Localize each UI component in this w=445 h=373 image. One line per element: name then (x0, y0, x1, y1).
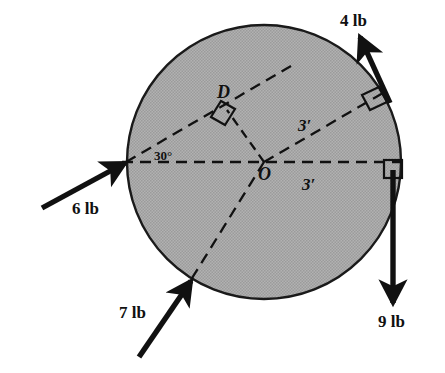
radius-label-lower: 3′ (301, 175, 315, 194)
statics-diagram: 4 lb 9 lb 7 lb 6 lb O D 30° 3′ 3′ (0, 0, 445, 373)
radius-label-upper: 3′ (297, 116, 311, 135)
center-point-label: O (258, 164, 271, 184)
force-label-4lb: 4 lb (340, 11, 367, 30)
force-label-9lb: 9 lb (378, 312, 405, 331)
point-label-D: D (216, 82, 230, 102)
force-label-6lb: 6 lb (72, 199, 99, 218)
force-label-7lb: 7 lb (119, 303, 146, 322)
angle-label-30: 30° (154, 148, 172, 163)
figure-container: 4 lb 9 lb 7 lb 6 lb O D 30° 3′ 3′ (0, 0, 445, 373)
